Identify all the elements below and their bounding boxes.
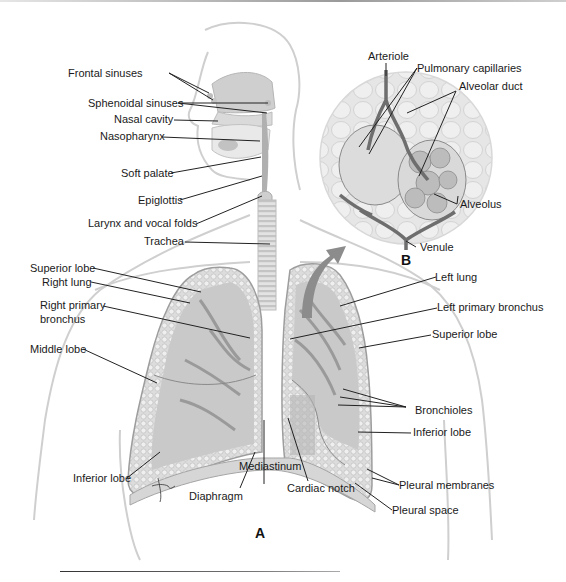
label-left-lung: Left lung [435,271,477,284]
panel-label-b: B [401,252,411,268]
alveoli-inset [320,70,492,250]
heart-region [290,395,315,455]
label-frontal-sinuses: Frontal sinuses [68,67,143,80]
label-trachea: Trachea [144,235,184,248]
label-nasal-cavity: Nasal cavity [114,113,173,126]
label-arteriole: Arteriole [368,50,409,63]
label-soft-palate: Soft palate [121,167,174,180]
trachea-shape [258,200,276,310]
label-sphenoidal-sinuses: Sphenoidal sinuses [88,97,183,110]
label-pulmonary-capillaries: Pulmonary capillaries [417,62,522,75]
label-mediastinum: Mediastinum [239,460,301,473]
label-middle-lobe: Middle lobe [30,343,86,356]
label-nasopharynx: Nasopharynx [100,130,165,143]
label-bronchioles: Bronchioles [415,404,472,417]
label-venule: Venule [420,241,454,254]
label-left-superior-lobe: Superior lobe [432,328,497,341]
label-right-superior-lobe: Superior lobe [30,262,95,275]
label-right-lung: Right lung [42,276,92,289]
label-pleural-space: Pleural space [392,504,459,517]
label-pleural-membranes: Pleural membranes [399,479,494,492]
label-right-primary-bronchus-line2: bronchus [40,313,85,326]
label-epiglottis: Epiglottis [138,194,183,207]
label-alveolar-duct: Alveolar duct [459,80,523,93]
panel-label-a: A [255,525,265,541]
label-left-primary-bronchus: Left primary bronchus [437,301,543,314]
label-right-inferior-lobe: Inferior lobe [73,472,131,485]
label-left-inferior-lobe: Inferior lobe [413,426,471,439]
label-cardiac-notch: Cardiac notch [287,482,355,495]
label-larynx-vocal-folds: Larynx and vocal folds [88,217,197,230]
bottom-rule [60,571,340,572]
label-diaphragm: Diaphragm [189,490,243,503]
label-alveolus: Alveolus [460,198,502,211]
label-right-primary-bronchus-line1: Right primary [40,299,105,312]
